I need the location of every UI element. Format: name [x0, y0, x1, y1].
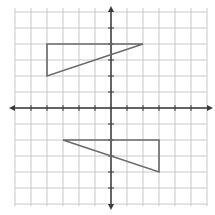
coordinate-plane [0, 0, 215, 215]
